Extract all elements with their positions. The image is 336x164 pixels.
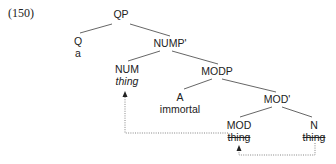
node-label: NUM [115, 63, 139, 75]
node-label: QP [113, 8, 128, 20]
node-label: MOD [227, 119, 252, 131]
node-qp: QP [113, 8, 128, 20]
node-word: thing [303, 131, 326, 143]
node-word: immortal [160, 103, 200, 115]
node-word: a [74, 47, 82, 59]
node-word: thing [115, 75, 139, 87]
node-label: MOD' [264, 93, 291, 105]
node-num: NUM thing [115, 63, 139, 87]
node-label: Q [74, 35, 82, 47]
node-mod: MOD thing [227, 119, 252, 143]
arrowhead-icon [237, 145, 242, 151]
node-n: N thing [303, 119, 326, 143]
node-label: MODP [201, 65, 233, 77]
node-q: Q a [74, 35, 82, 59]
node-nump-bar: NUMP' [154, 37, 187, 49]
node-label: NUMP' [154, 37, 187, 49]
node-word: thing [227, 131, 252, 143]
node-mod-bar: MOD' [264, 93, 291, 105]
movement-arrow-n-to-mod [239, 143, 315, 155]
arrowhead-icon [123, 91, 128, 97]
node-a: A immortal [160, 91, 200, 115]
syntax-tree-diagram: (150) QP Q a [0, 0, 336, 164]
node-modp: MODP [201, 65, 233, 77]
tree-branches [0, 0, 336, 164]
node-label: N [303, 119, 326, 131]
node-label: A [160, 91, 200, 103]
